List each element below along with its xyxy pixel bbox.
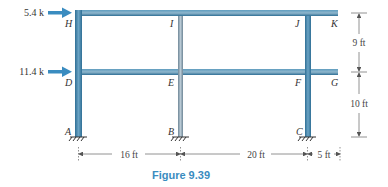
horizontal-dimension-line [79, 147, 341, 161]
joint-label-E: E [167, 77, 174, 88]
load-label-D: 11.4 k [19, 66, 44, 77]
beam-middle-DG [75, 69, 338, 75]
column-C-J [305, 16, 311, 137]
column-A-H [75, 10, 82, 137]
joint-label-K: K [330, 18, 339, 29]
figure-caption: Figure 9.39 [152, 169, 210, 181]
joint-label-H: H [64, 18, 73, 29]
frame-diagram: 5.4 k 11.4 k H I J K D E F G A B C 16 ft… [0, 0, 388, 187]
vertical-dimension-line [351, 13, 367, 137]
load-label-H: 5.4 k [24, 7, 44, 18]
joint-label-G: G [331, 77, 338, 88]
fixed-support-A [69, 137, 87, 141]
load-arrow-H [48, 8, 72, 19]
dimension-label-5ft: 5 ft [318, 150, 331, 160]
dimension-label-9ft: 9 ft [353, 38, 366, 48]
load-arrow-D [48, 67, 72, 78]
joint-label-A: A [64, 126, 72, 137]
fixed-support-C [298, 137, 316, 141]
joint-label-B: B [168, 126, 174, 137]
joint-label-C: C [296, 126, 303, 137]
joint-label-D: D [64, 77, 73, 88]
joint-label-I: I [169, 18, 174, 29]
dimension-label-10ft: 10 ft [350, 99, 368, 109]
fixed-support-B [171, 137, 189, 141]
dimension-label-16ft: 16 ft [120, 150, 138, 160]
dimension-label-20ft: 20 ft [247, 150, 265, 160]
beam-top-HK [75, 10, 338, 16]
joint-label-J: J [295, 18, 300, 29]
column-B-I [178, 16, 183, 137]
joint-label-F: F [294, 77, 302, 88]
